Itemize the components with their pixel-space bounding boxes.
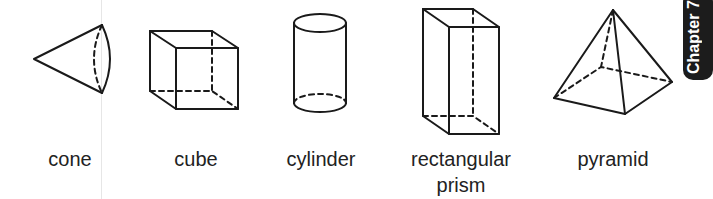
- pyramid-icon: [554, 10, 672, 114]
- cube-icon: [150, 31, 238, 109]
- label-line: prism: [411, 172, 511, 198]
- chapter-tab-label: Chapter 7: [684, 0, 704, 76]
- cylinder-icon: [294, 14, 346, 112]
- label-cone: cone: [48, 146, 91, 172]
- label-pyramid: pyramid: [577, 146, 648, 172]
- label-line: cylinder: [287, 146, 356, 172]
- label-rectangular-prism: rectangular prism: [411, 146, 511, 198]
- label-line: pyramid: [577, 146, 648, 172]
- cone-icon: [34, 25, 110, 93]
- label-line: cube: [174, 146, 217, 172]
- label-line: rectangular: [411, 146, 511, 172]
- rectangular-prism-icon: [423, 9, 499, 134]
- label-line: cone: [48, 146, 91, 172]
- label-cylinder: cylinder: [287, 146, 356, 172]
- label-cube: cube: [174, 146, 217, 172]
